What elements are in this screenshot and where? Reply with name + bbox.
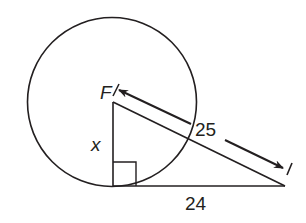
hypotenuse-segment — [113, 102, 285, 186]
dimension-tick-start — [113, 84, 119, 96]
tangent-label: 24 — [185, 193, 207, 214]
leg-label-x: x — [90, 134, 102, 155]
center-label-f: F — [100, 82, 113, 103]
geometry-figure: F x 25 24 — [0, 0, 306, 223]
dimension-arrow-lower — [225, 140, 283, 168]
hypotenuse-label: 25 — [195, 119, 216, 140]
dimension-arrow-upper — [119, 90, 191, 124]
circle — [28, 18, 197, 187]
right-angle-marker — [113, 162, 136, 186]
dimension-tick-end — [287, 163, 292, 175]
